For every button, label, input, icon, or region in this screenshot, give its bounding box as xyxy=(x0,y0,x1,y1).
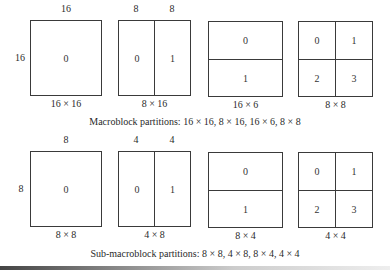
size-label: 8 × 16 xyxy=(118,98,191,109)
partition-index: 0 xyxy=(299,153,335,190)
macroblock-caption: Macroblock partitions: 16 × 16, 8 × 16, … xyxy=(0,116,390,127)
sub-partition-8x4: 0 1 xyxy=(208,152,283,228)
partition-8x8: 0 1 2 3 xyxy=(298,21,373,97)
sub-partition-4x4: 0 1 2 3 xyxy=(298,152,373,228)
partition-index: 2 xyxy=(299,60,335,96)
width-label: 8 xyxy=(60,134,72,145)
size-label: 8 × 4 xyxy=(208,230,283,241)
width-label: 8 xyxy=(167,3,177,14)
partition-index: 2 xyxy=(299,191,335,227)
partition-index: 0 xyxy=(119,152,155,226)
partition-index: 0 xyxy=(31,152,101,226)
submacroblock-caption: Sub-macroblock partitions: 8 × 8, 4 × 8,… xyxy=(0,248,390,259)
sub-partition-4x8: 0 1 xyxy=(118,151,191,227)
width-label: 16 xyxy=(58,3,74,14)
width-label: 8 xyxy=(131,3,141,14)
partition-index: 1 xyxy=(155,152,190,226)
size-label: 8 × 8 xyxy=(298,99,373,110)
page-edge-shadow xyxy=(0,266,390,270)
partition-index: 1 xyxy=(336,153,372,190)
partition-index: 3 xyxy=(336,191,372,227)
height-label: 16 xyxy=(13,52,27,63)
partition-index: 1 xyxy=(209,60,282,96)
size-label: 8 × 8 xyxy=(30,229,102,240)
width-label: 4 xyxy=(167,134,177,145)
partition-index: 0 xyxy=(209,22,282,59)
size-label: 16 × 6 xyxy=(208,99,283,110)
partition-index: 0 xyxy=(31,21,101,95)
partition-index: 1 xyxy=(155,21,190,95)
size-label: 4 × 4 xyxy=(298,230,373,241)
partition-index: 3 xyxy=(336,60,372,96)
partition-index: 0 xyxy=(209,153,282,190)
partition-index: 1 xyxy=(336,22,372,59)
width-label: 4 xyxy=(131,134,141,145)
sub-partition-8x8: 0 xyxy=(30,151,102,227)
partition-index: 0 xyxy=(299,22,335,59)
size-label: 16 × 16 xyxy=(30,98,102,109)
partition-16x16: 0 xyxy=(30,20,102,96)
size-label: 4 × 8 xyxy=(118,229,191,240)
partition-16x6: 0 1 xyxy=(208,21,283,97)
height-label: 8 xyxy=(16,183,26,194)
partition-index: 1 xyxy=(209,191,282,227)
partition-8x16: 0 1 xyxy=(118,20,191,96)
partition-index: 0 xyxy=(119,21,155,95)
